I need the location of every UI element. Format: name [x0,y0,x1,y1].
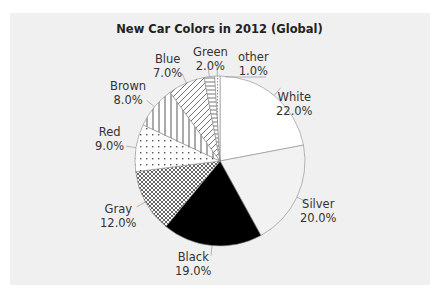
label-gray: Gray 12.0% [100,202,137,230]
label-other: other 1.0% [238,50,269,78]
label-red: Red 9.0% [95,125,124,153]
label-black: Black 19.0% [175,250,212,278]
label-blue: Blue 7.0% [153,52,182,80]
label-green: Green 2.0% [193,45,228,73]
leader-line [126,146,136,148]
label-silver: Silver 20.0% [300,197,337,225]
label-white: White 22.0% [276,90,313,118]
label-brown: Brown 8.0% [110,79,146,107]
leader-line [147,100,155,106]
pie-chart [0,0,439,293]
leader-line [137,202,146,207]
leader-line [182,74,186,83]
